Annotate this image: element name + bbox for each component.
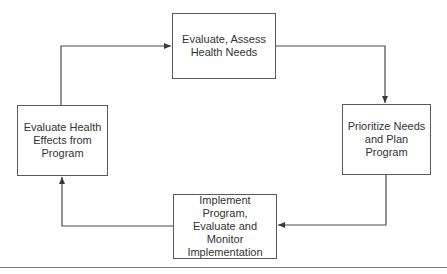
node-label-line: Effects from	[24, 134, 102, 147]
node-label-line: Prioritize Needs	[346, 120, 427, 133]
node-label-line: Evaluate, Assess	[182, 33, 266, 46]
edge-implement-to-evaluate	[62, 177, 173, 226]
node-label-line: and Plan Program	[346, 133, 427, 159]
node-evaluate-health-effects: Evaluate Health Effects from Program	[17, 105, 108, 176]
node-label-line: Implement Program,	[177, 194, 273, 220]
edge-prioritize-to-implement	[278, 175, 386, 225]
node-label-line: Program	[24, 147, 102, 160]
node-label-line: Evaluate Health	[24, 121, 102, 134]
node-prioritize-needs-plan-program: Prioritize Needs and Plan Program	[342, 104, 431, 175]
node-evaluate-assess-health-needs: Evaluate, Assess Health Needs	[172, 13, 276, 79]
node-label-line: Implementation	[177, 246, 273, 259]
edge-assess-to-prioritize	[276, 46, 385, 103]
edge-evaluate-to-assess	[61, 46, 171, 105]
node-label-line: Health Needs	[182, 46, 266, 59]
node-label-line: Evaluate and Monitor	[177, 220, 273, 246]
node-implement-program: Implement Program, Evaluate and Monitor …	[173, 194, 277, 259]
